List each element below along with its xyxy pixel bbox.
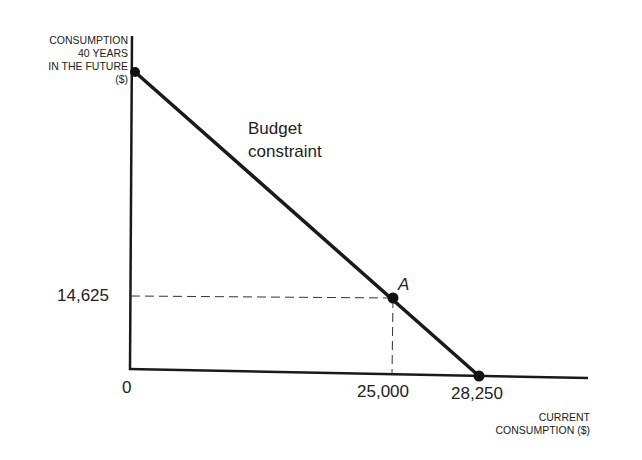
y-axis-label: CONSUMPTION 40 YEARS IN THE FUTURE ($) bbox=[48, 34, 128, 86]
y-axis bbox=[130, 36, 132, 370]
x-intercept-point bbox=[474, 371, 485, 382]
y-axis-label-line: 40 YEARS bbox=[48, 47, 128, 60]
budget-constraint-label: Budget constraint bbox=[248, 117, 322, 163]
x-axis-label: CURRENT CONSUMPTION ($) bbox=[496, 411, 591, 437]
x-tick-label: 25,000 bbox=[357, 382, 409, 402]
y-tick-label: 14,625 bbox=[57, 286, 109, 306]
y-axis-label-line: CONSUMPTION bbox=[48, 34, 128, 47]
series-label-line: constraint bbox=[248, 140, 322, 163]
point-a bbox=[388, 293, 399, 304]
point-a-label: A bbox=[398, 275, 409, 295]
guide-horizontal bbox=[131, 296, 393, 298]
x-axis bbox=[129, 369, 588, 378]
x-axis-label-line: CURRENT bbox=[496, 411, 591, 424]
series-label-line: Budget bbox=[248, 117, 322, 140]
y-axis-label-line: IN THE FUTURE bbox=[48, 60, 128, 73]
guide-vertical bbox=[392, 299, 393, 374]
x-tick-label: 28,250 bbox=[451, 384, 503, 404]
y-axis-label-line: ($) bbox=[48, 73, 128, 86]
x-axis-label-line: CONSUMPTION ($) bbox=[496, 424, 591, 437]
origin-label: 0 bbox=[122, 378, 131, 398]
y-intercept-point bbox=[130, 67, 140, 77]
